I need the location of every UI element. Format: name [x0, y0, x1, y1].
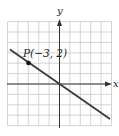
y-axis-arrow-icon	[57, 19, 62, 26]
point-p-label: P(−3, 2)	[22, 47, 67, 59]
x-axis-arrow-icon	[105, 82, 112, 87]
point-p	[26, 61, 31, 66]
y-axis-label: y	[56, 5, 63, 16]
x-axis-label: x	[113, 78, 119, 89]
coordinate-plane: P(−3, 2) y x	[0, 0, 119, 136]
